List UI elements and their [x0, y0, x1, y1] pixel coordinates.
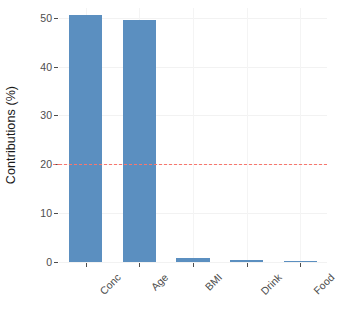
gridline-x-bmi: [193, 8, 194, 262]
x-axis-label-age: Age: [149, 271, 171, 293]
y-tick-mark-0: [54, 262, 58, 263]
y-tick-label-40: 40: [22, 61, 52, 73]
bar-age: [123, 20, 156, 262]
gridline-x-drink: [247, 8, 248, 262]
y-axis-title-label: Contributions (%): [4, 86, 18, 184]
x-tick-mark-drink: [247, 263, 248, 267]
y-axis-title: Contributions (%): [0, 0, 22, 270]
y-tick-label-0: 0: [22, 256, 52, 268]
bar-bmi: [176, 258, 209, 262]
y-tick-label-30: 30: [22, 109, 52, 121]
x-axis-label-drink: Drink: [258, 271, 284, 297]
bar-food: [284, 261, 317, 262]
plot-panel: [59, 8, 327, 262]
x-axis-label-bmi: BMI: [202, 271, 224, 293]
threshold-line: [59, 164, 327, 165]
x-axis-label-conc: Conc: [97, 271, 123, 297]
x-tick-mark-food: [300, 263, 301, 267]
y-tick-label-20: 20: [22, 158, 52, 170]
bar-conc: [69, 15, 102, 262]
x-axis-label-food: Food: [311, 271, 336, 296]
threshold-line-axis-stub: [53, 164, 60, 165]
gridline-x-food: [300, 8, 301, 262]
bar-drink: [230, 260, 263, 262]
y-tick-mark-10: [54, 213, 58, 214]
chart-title: [55, 0, 255, 1]
x-tick-mark-age: [139, 263, 140, 267]
y-tick-mark-50: [54, 18, 58, 19]
y-tick-mark-30: [54, 115, 58, 116]
x-tick-mark-bmi: [193, 263, 194, 267]
y-tick-mark-40: [54, 67, 58, 68]
y-tick-label-50: 50: [22, 12, 52, 24]
x-tick-mark-conc: [86, 263, 87, 267]
y-tick-label-10: 10: [22, 207, 52, 219]
